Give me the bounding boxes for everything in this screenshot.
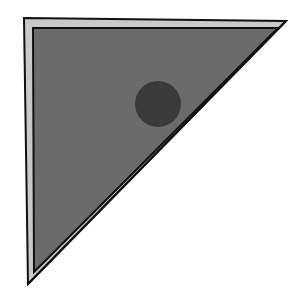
triangle-face xyxy=(33,28,278,272)
triangle-diagram xyxy=(0,0,304,304)
diagram-canvas xyxy=(0,0,304,304)
dot xyxy=(135,81,181,127)
